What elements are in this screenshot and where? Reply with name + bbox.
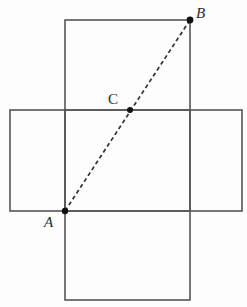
geometry-figure: A C B bbox=[0, 0, 247, 307]
dashed-diagonal-ab bbox=[65, 20, 190, 211]
vertical-column-rect bbox=[65, 20, 190, 300]
point-b-dot bbox=[187, 17, 194, 24]
point-a-label: A bbox=[44, 215, 53, 230]
figure-canvas bbox=[0, 0, 247, 307]
point-a-dot bbox=[62, 208, 68, 214]
horizontal-band-rect bbox=[10, 110, 242, 211]
point-c-dot bbox=[127, 107, 133, 113]
point-c-label: C bbox=[108, 92, 118, 107]
point-b-label: B bbox=[196, 6, 205, 21]
